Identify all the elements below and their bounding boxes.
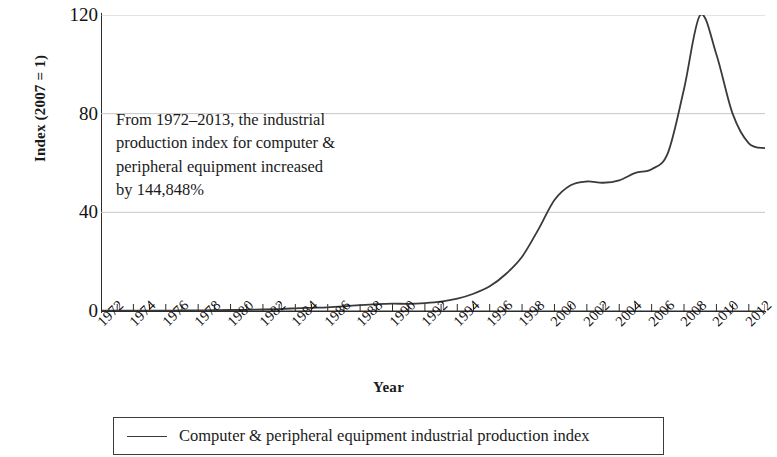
- y-tick-label-40: 40: [54, 202, 98, 221]
- annotation-line-4: by 144,848%: [116, 178, 421, 201]
- legend-line-swatch: [127, 436, 167, 437]
- y-tick-label-0: 0: [54, 301, 98, 320]
- chart-figure: Index (2007 = 1) 04080120 From 1972–2013…: [0, 0, 777, 457]
- y-tick-label-80: 80: [54, 104, 98, 123]
- annotation-line-2: production index for computer &: [116, 131, 421, 154]
- x-axis-title: Year: [0, 379, 777, 396]
- annotation-line-1: From 1972–2013, the industrial: [116, 108, 421, 131]
- chart-annotation-growth-note: From 1972–2013, the industrialproduction…: [116, 108, 421, 202]
- chart-legend: Computer & peripheral equipment industri…: [113, 417, 664, 455]
- legend-label-computer-peripheral-index: Computer & peripheral equipment industri…: [179, 426, 590, 446]
- annotation-line-3: peripheral equipment increased: [116, 155, 421, 178]
- y-tick-label-120: 120: [54, 5, 98, 24]
